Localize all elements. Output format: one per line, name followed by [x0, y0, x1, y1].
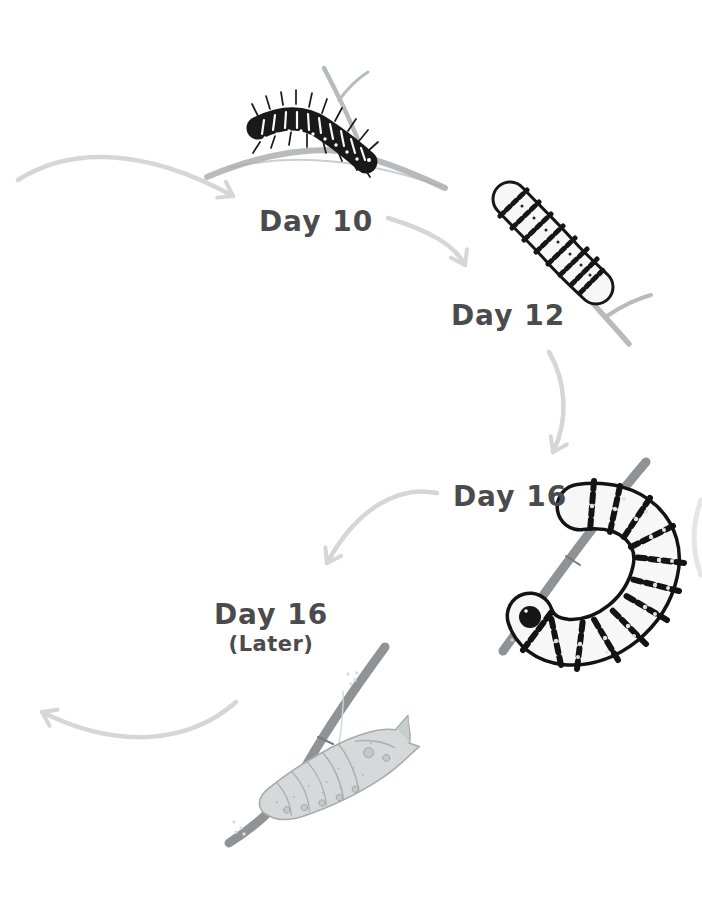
diagram-artwork — [0, 0, 702, 907]
arrow-day-16-to-day-16-later — [327, 491, 437, 563]
stage-label-text: Day 16 — [214, 598, 328, 631]
striped-caterpillar-icon — [500, 190, 604, 293]
early-instar-caterpillar-icon — [252, 90, 378, 177]
stage-label-day-16-later: Day 16 (Later) — [214, 600, 328, 656]
stage-label-text: Day 10 — [259, 205, 373, 238]
arrow-into-day-10 — [18, 157, 233, 196]
stage-label-text: Day 16 — [453, 480, 567, 513]
right-edge-arc-fragment — [694, 500, 701, 575]
stage-label-text: Day 12 — [451, 299, 565, 332]
stage-label-day-16: Day 16 — [453, 482, 567, 513]
day-16-later-illustration — [229, 647, 429, 843]
arrow-day-12-to-day-16 — [549, 352, 564, 452]
stage-sublabel-text: (Later) — [214, 633, 328, 656]
head — [519, 606, 541, 628]
life-cycle-diagram: Day 10 Day 12 Day 16 Day 16 (Later) — [0, 0, 702, 907]
stage-label-day-12: Day 12 — [451, 301, 565, 332]
chrysalis-icon — [249, 713, 428, 832]
stage-label-day-10: Day 10 — [259, 207, 373, 238]
day-10-illustration — [207, 68, 445, 188]
arrow-day-10-to-day-12 — [388, 218, 465, 265]
arrow-day-16-later-outgoing — [42, 702, 236, 737]
